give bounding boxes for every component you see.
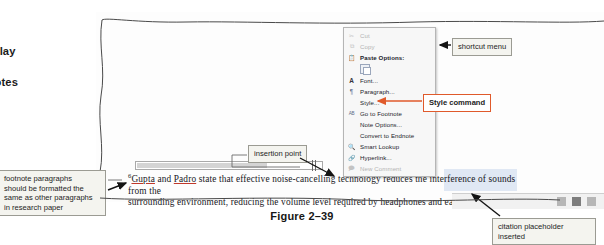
doc-text-and: and	[155, 174, 174, 184]
menu-item-cut[interactable]: Cut	[344, 30, 435, 41]
paragraph-icon	[347, 87, 356, 96]
menu-item-cut-label: Cut	[360, 32, 370, 39]
callout-citation-placeholder: citation placeholder inserted	[492, 218, 596, 245]
status-bar	[452, 193, 604, 209]
paste-icon	[347, 53, 356, 62]
menu-item-paragraph[interactable]: Paragraph...	[344, 86, 435, 97]
menu-item-go-to-footnote-label: Go to Footnote	[360, 110, 402, 117]
menu-item-new-comment-label: New Comment	[360, 165, 401, 172]
keep-source-formatting-icon[interactable]	[360, 64, 370, 74]
no-icon	[347, 98, 356, 107]
menu-item-style-label: Style...	[360, 99, 379, 106]
doc-word-padro: Padro	[174, 174, 196, 184]
menu-item-font-label: Font...	[360, 77, 378, 84]
menu-item-convert-to-endnote-label: Convert to Endnote	[360, 132, 414, 139]
instruction-text: click the ext in the ote to display tcut…	[0, 14, 72, 105]
paste-option-buttons[interactable]	[344, 63, 435, 75]
magnifier-icon	[347, 142, 356, 151]
menu-item-paste-options-label: Paste Options:	[360, 54, 404, 61]
callout-insertion-point: insertion point	[248, 145, 307, 163]
menu-item-convert-to-endnote[interactable]: Convert to Endnote	[344, 130, 435, 141]
menu-item-note-options-label: Note Options...	[360, 121, 402, 128]
menu-item-font[interactable]: Font...	[344, 75, 435, 86]
menu-item-copy[interactable]: Copy	[344, 41, 435, 52]
comment-icon	[347, 164, 356, 173]
menu-item-style[interactable]: Style...	[344, 97, 435, 108]
menu-item-hyperlink-label: Hyperlink...	[360, 154, 392, 161]
web-layout-view-button[interactable]	[587, 197, 596, 206]
menu-item-paste-options[interactable]: Paste Options:	[344, 52, 435, 63]
menu-item-paragraph-label: Paragraph...	[360, 88, 395, 95]
no-icon	[347, 120, 356, 129]
menu-item-go-to-footnote[interactable]: Go to Footnote	[344, 108, 435, 119]
scissors-icon	[347, 31, 356, 40]
doc-word-gupta: Gupta	[131, 174, 154, 184]
callout-shortcut-menu: shortcut menu	[452, 38, 512, 56]
menu-item-hyperlink[interactable]: Hyperlink...	[344, 152, 435, 163]
print-layout-view-button[interactable]	[572, 197, 581, 206]
read-mode-view-button[interactable]	[557, 197, 566, 206]
link-icon	[347, 153, 356, 162]
menu-item-copy-label: Copy	[360, 43, 375, 50]
menu-item-new-comment[interactable]: New Comment	[344, 163, 435, 174]
abc-icon	[347, 109, 356, 118]
figure-caption: Figure 2–39	[0, 210, 604, 222]
menu-item-smart-lookup-label: Smart Lookup	[360, 143, 399, 150]
menu-item-note-options[interactable]: Note Options...	[344, 119, 435, 130]
callout-style-command: Style command	[423, 94, 491, 112]
no-icon	[347, 131, 356, 140]
ruler-indent-region	[137, 163, 267, 168]
menu-item-smart-lookup[interactable]: Smart Lookup	[344, 141, 435, 152]
copy-icon	[347, 42, 356, 51]
font-icon	[347, 76, 356, 85]
